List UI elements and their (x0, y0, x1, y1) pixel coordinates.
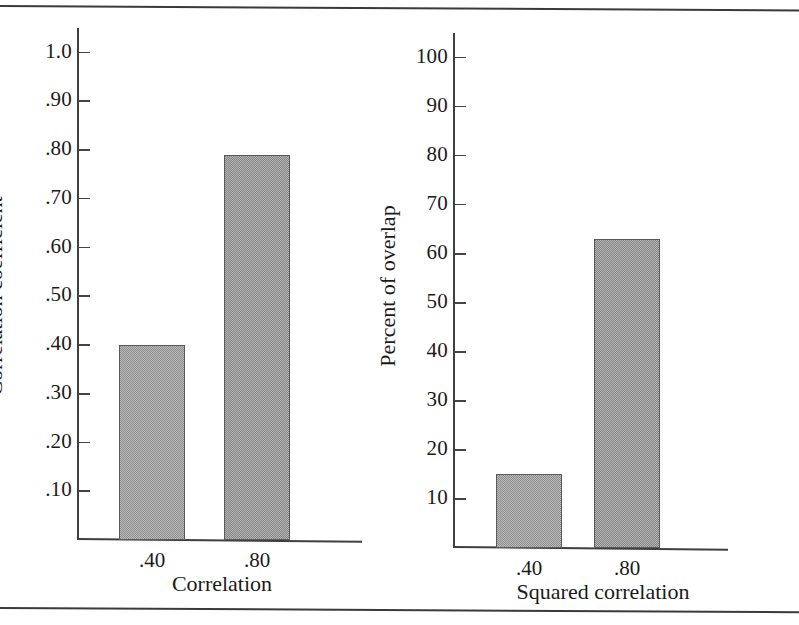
y-tick: 70 (455, 204, 466, 206)
y-tick: .80 (79, 149, 90, 151)
plot-area-right: 100908070605040302010 .40.80 (453, 33, 728, 548)
bar (496, 474, 562, 548)
chart-panel-squared-correlation: Percent of overlap 100908070605040302010… (400, 0, 799, 625)
y-tick-label: 100 (416, 46, 448, 67)
x-tick-label: .40 (139, 550, 165, 571)
y-tick-label: 90 (427, 95, 448, 116)
y-tick-label: 80 (427, 144, 448, 165)
y-tick: .60 (79, 247, 90, 249)
y-tick-label: 20 (427, 438, 448, 459)
y-tick: 20 (455, 449, 466, 451)
y-tick-label: 70 (427, 193, 448, 214)
y-axis-line-left (77, 28, 79, 540)
y-axis-line-right (453, 33, 455, 548)
y-axis-title-right: Percent of overlap (377, 205, 399, 366)
y-tick: 50 (455, 302, 466, 304)
y-axis-title-left: Correlation coefficient (0, 196, 6, 395)
y-tick: .30 (79, 393, 90, 395)
y-tick-label: .80 (45, 138, 72, 159)
x-tick-label: .80 (614, 558, 640, 579)
y-tick-label: .60 (45, 236, 72, 257)
y-tick: .10 (79, 490, 90, 492)
y-tick-label: 60 (427, 242, 448, 263)
y-tick-label: 1.0 (45, 41, 72, 62)
x-axis-title-left: Correlation (172, 573, 272, 595)
x-tick-label: .80 (244, 550, 270, 571)
y-tick: .40 (79, 344, 90, 346)
y-tick-label: .10 (45, 480, 72, 501)
y-tick-label: .50 (45, 284, 72, 305)
y-tick: 30 (455, 400, 466, 402)
y-tick-label: 30 (427, 389, 448, 410)
y-tick-label: 50 (427, 291, 448, 312)
y-tick-label: .40 (45, 333, 72, 354)
plot-area-left: 1.0.90.80.70.60.50.40.30.20.10 .40.80 (77, 28, 362, 540)
y-tick-label: .30 (45, 382, 72, 403)
y-tick: 1.0 (79, 52, 90, 54)
y-tick: 10 (455, 498, 466, 500)
x-axis-title-right: Squared correlation (517, 581, 690, 603)
y-tick: 100 (455, 57, 466, 59)
y-tick: .20 (79, 442, 90, 444)
x-axis-line-right (453, 546, 728, 551)
y-tick: .90 (79, 100, 90, 102)
x-tick-label: .40 (516, 558, 542, 579)
y-tick: 40 (455, 351, 466, 353)
bar (594, 239, 660, 548)
bar (119, 345, 185, 540)
y-tick-label: 40 (427, 340, 448, 361)
y-tick-label: .90 (45, 89, 72, 110)
y-tick: .50 (79, 295, 90, 297)
y-tick: .70 (79, 198, 90, 200)
chart-panel-correlation: Correlation coefficient 1.0.90.80.70.60.… (0, 0, 400, 625)
bar (224, 155, 290, 540)
y-tick-label: 10 (427, 487, 448, 508)
y-tick: 90 (455, 106, 466, 108)
y-tick-label: .20 (45, 431, 72, 452)
y-tick-label: .70 (45, 187, 72, 208)
y-tick: 60 (455, 253, 466, 255)
y-tick: 80 (455, 155, 466, 157)
